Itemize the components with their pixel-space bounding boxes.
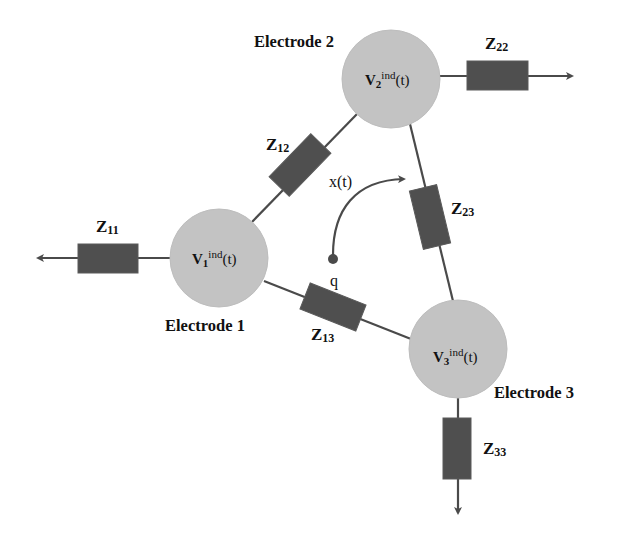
- impedance-z23-resistor: [409, 185, 450, 250]
- electrode-2-label: Electrode 2: [254, 32, 334, 51]
- impedance-z11-resistor: [78, 244, 138, 273]
- electrode-1-label: Electrode 1: [165, 316, 245, 335]
- impedance-z13-label: Z13: [311, 325, 334, 345]
- impedance-z11-label: Z11: [96, 217, 119, 237]
- impedance-z23-label: Z23: [451, 199, 474, 219]
- trajectory-label: x(t): [329, 173, 352, 191]
- electrode-impedance-diagram: V1ind(t) V2ind(t) V3ind(t) Electrode 1 E…: [0, 0, 618, 541]
- impedance-z22-resistor: [467, 61, 528, 90]
- impedance-z33-resistor: [443, 418, 471, 479]
- impedance-z13-resistor: [300, 283, 366, 331]
- charge-label: q: [330, 272, 338, 290]
- impedance-z12-label: Z12: [266, 135, 289, 155]
- charge-dot: [328, 254, 338, 264]
- charge-trajectory-arrow: [333, 179, 404, 255]
- impedance-z33-label: Z33: [483, 439, 506, 459]
- impedance-z22-label: Z22: [485, 34, 508, 54]
- electrode-3-label: Electrode 3: [494, 383, 574, 402]
